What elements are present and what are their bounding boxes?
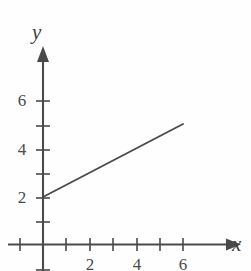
- x-tick-label-6: 6: [173, 256, 193, 271]
- y-axis-label: y: [32, 22, 41, 43]
- x-tick-label-2: 2: [80, 256, 100, 271]
- y-tick-label-2: 2: [12, 189, 32, 206]
- y-tick-label-6: 6: [12, 92, 32, 109]
- data-line-segment: [43, 124, 183, 197]
- x-axis-label: x: [232, 234, 241, 255]
- y-axis-arrow-icon: [37, 46, 49, 62]
- line-graph-figure: y x 6 4 2 2 4 6: [0, 0, 251, 271]
- x-tick-label-4: 4: [127, 256, 147, 271]
- y-tick-label-4: 4: [12, 141, 32, 158]
